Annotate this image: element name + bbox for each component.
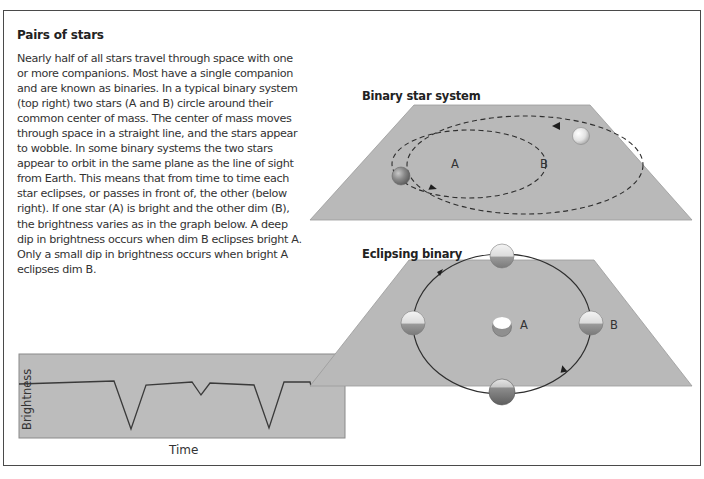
brightness-graph [19,354,345,438]
star-a-dim-icon [392,167,410,185]
star-a-icon [493,317,512,337]
illustration-canvas [0,0,704,479]
binary-orbital-plane [310,105,692,220]
star-top-icon [490,244,514,268]
star-b-icon [579,311,603,335]
graph-background [19,354,345,438]
star-bottom-icon [489,379,515,405]
graph-x-axis-label: Time [169,443,198,457]
star-b-bright-icon [573,128,590,145]
eclipsing-binary-diagram [310,244,692,405]
binary-label-b: B [540,157,548,171]
binary-label-a: A [451,157,459,171]
eclipsing-binary-title: Eclipsing binary [362,247,462,261]
star-left-icon [401,311,425,335]
graph-y-axis-label: Brightness [20,369,34,430]
eclipsing-label-a: A [520,318,528,332]
eclipsing-label-b: B [610,318,618,332]
binary-system-title: Binary star system [362,89,480,103]
binary-system-diagram [310,105,692,220]
